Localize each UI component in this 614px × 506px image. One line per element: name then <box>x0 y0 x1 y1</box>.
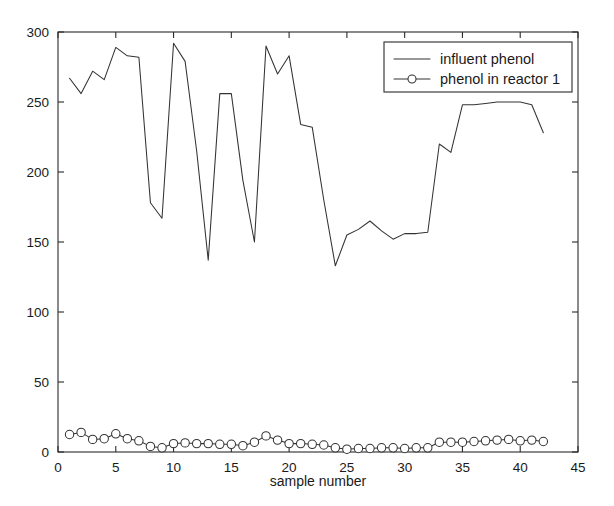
chart-svg: 051015202530354045 050100150200250300 sa… <box>0 0 614 506</box>
series-marker <box>481 437 489 445</box>
series-marker <box>377 444 385 452</box>
series-marker <box>435 438 443 446</box>
series-marker <box>158 444 166 452</box>
chart-legend: influent phenol phenol in reactor 1 <box>384 42 572 92</box>
x-axis-title: sample number <box>270 473 367 489</box>
series-marker <box>412 444 420 452</box>
series-marker <box>88 435 96 443</box>
series-marker <box>135 437 143 445</box>
series-marker <box>504 435 512 443</box>
series-marker <box>181 439 189 447</box>
x-tick-label: 15 <box>224 460 239 475</box>
series-marker <box>308 440 316 448</box>
series-marker <box>516 437 524 445</box>
series-marker <box>65 430 73 438</box>
series-marker <box>285 439 293 447</box>
legend-label-influent-phenol: influent phenol <box>440 51 534 67</box>
y-tick-label: 250 <box>26 95 49 110</box>
series-marker <box>77 428 85 436</box>
x-tick-label: 5 <box>112 460 120 475</box>
series-marker <box>216 440 224 448</box>
y-axis-ticks <box>58 32 578 452</box>
x-axis-ticks <box>58 32 578 452</box>
y-tick-label: 100 <box>26 305 49 320</box>
series-marker <box>123 435 131 443</box>
chart-figure: 051015202530354045 050100150200250300 sa… <box>0 0 614 506</box>
legend-label-phenol-reactor-1: phenol in reactor 1 <box>440 71 560 87</box>
series-marker <box>250 438 258 446</box>
series-marker <box>112 430 120 438</box>
series-marker <box>273 436 281 444</box>
series-marker <box>389 444 397 452</box>
y-tick-label: 50 <box>34 375 49 390</box>
series-marker <box>239 442 247 450</box>
series-marker <box>366 444 374 452</box>
y-tick-label: 200 <box>26 165 49 180</box>
x-tick-label: 30 <box>397 460 412 475</box>
x-tick-label: 0 <box>54 460 62 475</box>
series-marker <box>528 436 536 444</box>
y-axis-tick-labels: 050100150200250300 <box>26 25 49 460</box>
series-marker <box>204 439 212 447</box>
series-marker <box>227 440 235 448</box>
series-marker <box>470 437 478 445</box>
series-group <box>65 43 547 453</box>
series-marker <box>320 441 328 449</box>
x-tick-label: 45 <box>570 460 585 475</box>
legend-marker-circle <box>408 75 416 83</box>
series-marker <box>539 437 547 445</box>
series-marker <box>424 444 432 452</box>
series-marker <box>146 442 154 450</box>
series-marker <box>262 432 270 440</box>
series-marker <box>169 439 177 447</box>
series-marker <box>331 444 339 452</box>
y-tick-label: 0 <box>41 445 49 460</box>
series-marker <box>343 445 351 453</box>
series-marker <box>458 438 466 446</box>
series-marker <box>447 438 455 446</box>
x-tick-label: 10 <box>166 460 181 475</box>
y-tick-label: 300 <box>26 25 49 40</box>
x-tick-label: 35 <box>455 460 470 475</box>
series-marker <box>100 435 108 443</box>
series-marker <box>296 439 304 447</box>
plot-frame <box>58 32 578 452</box>
series-marker <box>400 444 408 452</box>
x-tick-label: 40 <box>513 460 528 475</box>
series-marker <box>493 436 501 444</box>
series-marker <box>354 444 362 452</box>
y-tick-label: 150 <box>26 235 49 250</box>
series-marker <box>192 439 200 447</box>
